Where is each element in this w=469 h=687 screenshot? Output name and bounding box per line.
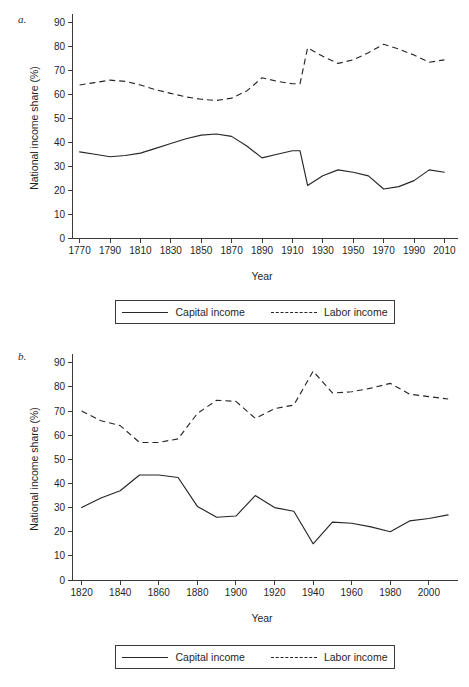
y-axis-tick-label: 70	[54, 65, 66, 76]
x-axis-tick-label: 1990	[403, 245, 426, 256]
x-axis-tick-label: 1810	[129, 245, 152, 256]
x-axis-tick-label: 1820	[71, 587, 94, 598]
y-axis-tick-label: 90	[54, 17, 66, 28]
x-axis-title: Year	[251, 612, 273, 624]
x-axis-tick-label: 1900	[225, 587, 248, 598]
legend-swatch-solid-icon	[122, 657, 168, 658]
series-line-labor-income	[80, 44, 445, 100]
y-axis-tick-label: 60	[54, 89, 66, 100]
y-axis-tick-label: 80	[54, 381, 66, 392]
x-axis-tick-label: 2010	[433, 245, 456, 256]
series-line-capital-income	[80, 134, 445, 189]
legend-entry-capital-income: Capital income	[122, 651, 244, 663]
y-axis-tick-label: 30	[54, 161, 66, 172]
legend-swatch-dashed-icon	[271, 657, 317, 658]
series-line-capital-income	[82, 475, 449, 544]
y-axis-tick-label: 10	[54, 550, 66, 561]
legend-label-capital-income: Capital income	[175, 651, 244, 663]
y-axis-tick-label: 40	[54, 478, 66, 489]
x-axis-tick-label: 2000	[418, 587, 441, 598]
x-axis-tick-label: 1870	[220, 245, 243, 256]
y-axis-tick-label: 0	[59, 233, 65, 244]
x-axis-tick-label: 1960	[341, 587, 364, 598]
y-axis-tick-label: 10	[54, 209, 66, 220]
x-axis-tick-label: 1980	[379, 587, 402, 598]
legend-panel-b: Capital income Labor income	[115, 645, 395, 669]
legend-swatch-solid-icon	[122, 312, 168, 313]
y-axis-tick-label: 70	[54, 406, 66, 417]
y-axis-tick-label: 80	[54, 41, 66, 52]
legend-entry-capital-income: Capital income	[122, 306, 244, 318]
x-axis-tick-label: 1860	[148, 587, 171, 598]
y-axis-tick-label: 50	[54, 454, 66, 465]
legend-panel-a: Capital income Labor income	[115, 300, 395, 324]
y-axis-tick-label: 20	[54, 526, 66, 537]
legend-label-capital-income: Capital income	[175, 306, 244, 318]
legend-label-labor-income: Labor income	[324, 306, 388, 318]
y-axis-tick-label: 40	[54, 137, 66, 148]
y-axis-tick-label: 0	[59, 575, 65, 586]
x-axis-tick-label: 1940	[302, 587, 325, 598]
x-axis-tick-label: 1830	[160, 245, 183, 256]
y-axis-tick-label: 90	[54, 357, 66, 368]
x-axis-tick-label: 1790	[99, 245, 122, 256]
y-axis-tick-label: 20	[54, 185, 66, 196]
y-axis-tick-label: 30	[54, 502, 66, 513]
panel-label-b: b.	[18, 350, 26, 362]
y-axis-title: National income share (%)	[28, 66, 40, 190]
x-axis-tick-label: 1770	[68, 245, 91, 256]
x-axis-tick-label: 1950	[342, 245, 365, 256]
figure-panel-a: a. 0102030405060708090177017901810183018…	[0, 0, 469, 340]
legend-swatch-dashed-icon	[271, 312, 317, 313]
x-axis-title: Year	[251, 270, 273, 282]
legend-entry-labor-income: Labor income	[271, 651, 388, 663]
x-axis-tick-label: 1890	[251, 245, 274, 256]
x-axis-tick-label: 1850	[190, 245, 213, 256]
y-axis-tick-label: 50	[54, 113, 66, 124]
panel-label-a: a.	[18, 13, 26, 25]
x-axis-tick-label: 1910	[281, 245, 304, 256]
x-axis-tick-label: 1930	[312, 245, 335, 256]
x-axis-tick-label: 1920	[263, 587, 286, 598]
x-axis-tick-label: 1840	[109, 587, 132, 598]
chart-panel-a: 0102030405060708090177017901810183018501…	[0, 0, 469, 300]
legend-entry-labor-income: Labor income	[271, 306, 388, 318]
x-axis-tick-label: 1970	[372, 245, 395, 256]
figure-panel-b: b. 0102030405060708090182018401860188019…	[0, 340, 469, 687]
legend-label-labor-income: Labor income	[324, 651, 388, 663]
chart-panel-b: 0102030405060708090182018401860188019001…	[0, 340, 469, 640]
y-axis-title: National income share (%)	[28, 407, 40, 531]
x-axis-tick-label: 1880	[186, 587, 209, 598]
y-axis-tick-label: 60	[54, 430, 66, 441]
series-line-labor-income	[82, 371, 449, 442]
